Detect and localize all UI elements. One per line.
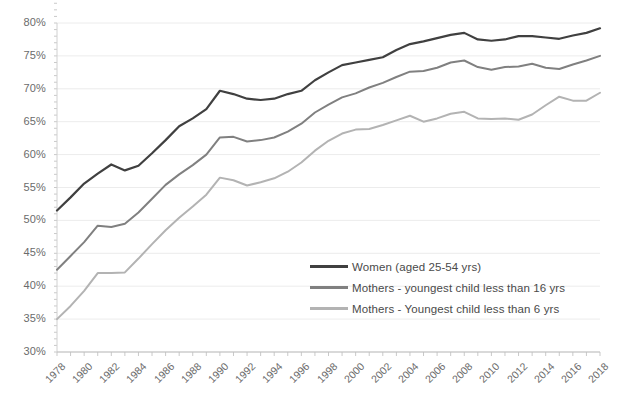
legend-swatch-mothers-under6 [310,307,348,310]
chart-legend: Women (aged 25-54 yrs) Mothers - younges… [310,256,565,319]
line-chart-plot [0,0,621,411]
legend-label-mothers-under6: Mothers - Youngest child less than 6 yrs [352,303,559,315]
chart-container: 30%35%40%45%50%55%60%65%70%75%80%85% 197… [0,0,621,411]
legend-swatch-mothers-under16 [310,286,348,289]
legend-item-women[interactable]: Women (aged 25-54 yrs) [310,256,565,277]
legend-swatch-women [310,265,348,268]
legend-item-mothers-under16[interactable]: Mothers - youngest child less than 16 yr… [310,277,565,298]
legend-label-mothers-under16: Mothers - youngest child less than 16 yr… [352,282,565,294]
x-axis-minor-ticks [57,352,600,356]
legend-label-women: Women (aged 25-54 yrs) [352,261,481,273]
legend-item-mothers-under6[interactable]: Mothers - Youngest child less than 6 yrs [310,298,565,319]
